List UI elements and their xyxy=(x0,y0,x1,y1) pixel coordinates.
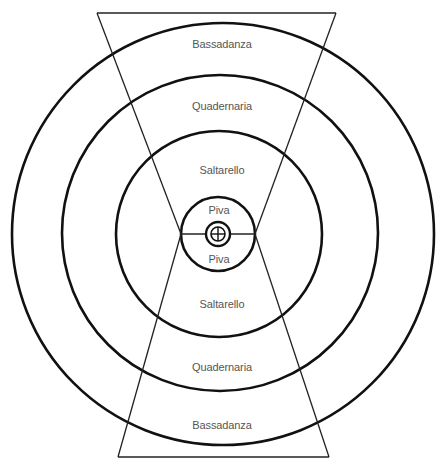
label-bassadanza-top: Bassadanza xyxy=(192,38,252,50)
label-bassadanza-bottom: Bassadanza xyxy=(192,419,252,431)
dance-hierarchy-diagram: Bassadanza Quadernaria Saltarello Piva P… xyxy=(0,0,443,469)
label-saltarello-top: Saltarello xyxy=(200,164,245,176)
label-quadernaria-bottom: Quadernaria xyxy=(192,361,252,373)
label-piva-bottom: Piva xyxy=(209,253,230,265)
diagram-canvas xyxy=(0,0,443,469)
top-left-converging-line xyxy=(97,13,181,234)
label-saltarello-bottom: Saltarello xyxy=(200,298,245,310)
label-piva-top: Piva xyxy=(209,204,230,216)
bottom-right-diverging-line xyxy=(255,234,329,457)
top-right-converging-line xyxy=(255,13,336,234)
bottom-left-diverging-line xyxy=(118,234,181,457)
label-quadernaria-top: Quadernaria xyxy=(192,100,252,112)
